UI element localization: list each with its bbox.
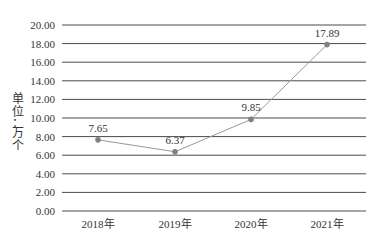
y-tick-label: 2.00 [36,186,56,198]
data-label: 9.85 [241,101,261,113]
x-tick-label: 2020年 [235,217,268,230]
ylabel-char: 个 [11,140,25,153]
data-label: 7.65 [88,122,108,134]
y-tick-label: 10.00 [30,112,55,124]
data-label: 17.89 [315,27,340,39]
y-tick-label: 20.00 [30,19,55,31]
gridlines [62,25,366,211]
data-point [324,42,330,48]
x-tick-label: 2019年 [159,217,192,230]
x-tick-label: 2018年 [82,217,115,230]
data-point [248,117,254,123]
data-series: 7.656.379.8517.89 [88,27,340,155]
data-point [95,137,101,143]
y-tick-label: 12.00 [30,93,55,105]
y-axis-label: 单 位 ： 万 个 [11,93,25,153]
x-tick-label: 2021年 [311,217,344,230]
y-tick-label: 14.00 [30,75,55,87]
y-tick-label: 16.00 [30,56,55,68]
y-tick-label: 0.00 [36,205,56,217]
data-label: 6.37 [165,134,185,146]
line-chart: 0.002.004.006.008.0010.0012.0014.0016.00… [0,0,380,241]
y-tick-label: 6.00 [36,149,56,161]
y-tick-label: 4.00 [36,168,56,180]
y-tick-label: 18.00 [30,38,55,50]
data-point [172,149,178,155]
series-line [98,45,327,152]
y-tick-label: 8.00 [36,131,56,143]
y-axis-ticks: 0.002.004.006.008.0010.0012.0014.0016.00… [30,19,55,217]
x-axis-ticks: 2018年2019年2020年2021年 [82,217,344,230]
